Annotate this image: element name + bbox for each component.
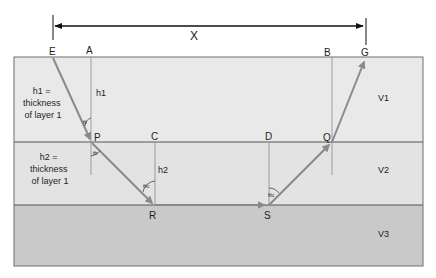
point-E: E xyxy=(49,46,56,57)
angle-critical-S: θic xyxy=(268,192,275,198)
angle-incident: θi xyxy=(83,119,87,125)
velocity-v3: V3 xyxy=(378,229,389,239)
angle-refracted: θr xyxy=(93,150,98,156)
height-h2: h2 xyxy=(158,165,168,175)
point-C: C xyxy=(151,131,158,142)
refraction-diagram: X θi θr θic θic E A B G P C D Q R S h1 h… xyxy=(0,0,436,278)
point-B: B xyxy=(324,47,331,58)
point-R: R xyxy=(149,210,156,221)
velocity-v2: V2 xyxy=(378,165,389,175)
height-h1: h1 xyxy=(96,88,106,98)
x-distance-label: X xyxy=(190,29,198,43)
layer-2 xyxy=(14,142,423,205)
point-G: G xyxy=(361,47,369,58)
angle-critical-R: θic xyxy=(143,183,150,189)
point-Q: Q xyxy=(323,132,331,143)
point-A: A xyxy=(86,45,93,56)
layer-3 xyxy=(14,205,423,266)
point-P: P xyxy=(94,132,101,143)
point-S: S xyxy=(264,210,271,221)
velocity-v1: V1 xyxy=(378,93,389,103)
point-D: D xyxy=(265,131,272,142)
